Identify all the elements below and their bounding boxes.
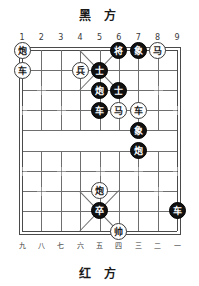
piece-black-elephant-7-0[interactable]: 象 bbox=[130, 42, 147, 59]
file-label-4: 4 bbox=[73, 32, 87, 44]
piece-red-horse-8-0[interactable]: 马 bbox=[149, 42, 166, 59]
pawn-point-3-3 bbox=[57, 106, 66, 115]
file-label-三: 三 bbox=[131, 240, 145, 252]
file-label-3: 3 bbox=[54, 32, 68, 44]
piece-red-cannon-1-0[interactable]: 炮 bbox=[14, 42, 31, 59]
xiangqi-board-figure: 黑 方 123456789 炮将象马车兵士炮士车马车象炮炮卒车帅 九八七六五四三… bbox=[0, 0, 199, 286]
rank-line-9 bbox=[22, 231, 177, 232]
file-label-七: 七 bbox=[54, 240, 68, 252]
piece-red-chariot-1-1[interactable]: 车 bbox=[14, 62, 31, 79]
piece-red-marshal-6-9[interactable]: 帅 bbox=[110, 223, 127, 240]
cannon-point-8-2 bbox=[154, 86, 163, 95]
file-line-3-top bbox=[61, 50, 62, 130]
piece-black-elephant-7-4[interactable]: 象 bbox=[130, 122, 147, 139]
pawn-point-1-6 bbox=[18, 167, 27, 176]
file-label-八: 八 bbox=[34, 240, 48, 252]
cannon-point-2-7 bbox=[37, 187, 46, 196]
file-label-9: 9 bbox=[170, 32, 184, 44]
pawn-point-5-6 bbox=[96, 167, 105, 176]
piece-red-pawn-4-1[interactable]: 兵 bbox=[72, 62, 89, 79]
piece-black-chariot-9-8[interactable]: 车 bbox=[169, 202, 186, 219]
pawn-point-9-6 bbox=[173, 167, 182, 176]
pawn-point-7-6 bbox=[134, 167, 143, 176]
file-line-3-bottom bbox=[61, 151, 62, 231]
file-label-5: 5 bbox=[93, 32, 107, 44]
file-label-二: 二 bbox=[151, 240, 165, 252]
file-labels-bottom: 九八七六五四三二一 bbox=[0, 240, 199, 252]
pawn-point-9-3 bbox=[173, 106, 182, 115]
piece-black-advisor-5-1[interactable]: 士 bbox=[91, 62, 108, 79]
file-label-六: 六 bbox=[73, 240, 87, 252]
file-label-一: 一 bbox=[170, 240, 184, 252]
file-label-九: 九 bbox=[15, 240, 29, 252]
file-label-五: 五 bbox=[93, 240, 107, 252]
file-label-2: 2 bbox=[34, 32, 48, 44]
red-side-title: 红 方 bbox=[0, 264, 199, 281]
black-side-title: 黑 方 bbox=[0, 6, 199, 23]
cannon-point-8-7 bbox=[154, 187, 163, 196]
piece-black-chariot-5-3[interactable]: 车 bbox=[91, 102, 108, 119]
piece-black-cannon-5-2[interactable]: 炮 bbox=[91, 82, 108, 99]
pawn-point-1-3 bbox=[18, 106, 27, 115]
cannon-point-2-2 bbox=[37, 86, 46, 95]
board-grid: 炮将象马车兵士炮士车马车象炮炮卒车帅 bbox=[22, 50, 177, 231]
piece-red-chariot-7-3[interactable]: 车 bbox=[130, 102, 147, 119]
piece-black-cannon-7-5[interactable]: 炮 bbox=[130, 142, 147, 159]
file-labels-top: 123456789 bbox=[0, 32, 199, 44]
piece-black-advisor-6-2[interactable]: 士 bbox=[110, 82, 127, 99]
file-line-7-bottom bbox=[138, 151, 139, 231]
rank-line-4 bbox=[22, 130, 177, 131]
pawn-point-3-6 bbox=[57, 167, 66, 176]
piece-black-general-6-0[interactable]: 将 bbox=[110, 42, 127, 59]
file-label-四: 四 bbox=[112, 240, 126, 252]
